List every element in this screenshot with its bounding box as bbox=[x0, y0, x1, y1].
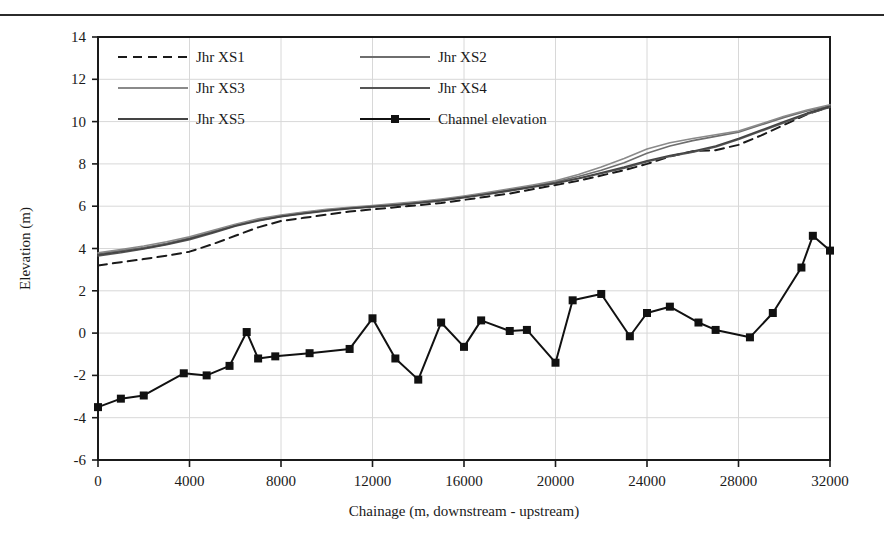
data-point-marker bbox=[712, 326, 720, 334]
data-point-marker bbox=[809, 232, 817, 240]
data-point-marker bbox=[254, 354, 262, 362]
x-tick-label: 0 bbox=[94, 473, 102, 489]
data-point-marker bbox=[460, 343, 468, 351]
y-tick-label: -6 bbox=[74, 452, 87, 468]
x-tick-label: 4000 bbox=[175, 473, 205, 489]
y-axis-label: Elevation (m) bbox=[17, 207, 34, 290]
legend-item[interactable]: Jhr XS1 bbox=[118, 49, 245, 65]
data-point-marker bbox=[94, 403, 102, 411]
x-tick-label: 20000 bbox=[537, 473, 575, 489]
x-tick-label: 32000 bbox=[811, 473, 849, 489]
figure-container: -6-4-20246810121404000800012000160002000… bbox=[0, 0, 884, 556]
data-point-marker bbox=[523, 326, 531, 334]
data-point-marker bbox=[203, 371, 211, 379]
data-point-marker bbox=[437, 319, 445, 327]
data-point-marker bbox=[826, 247, 834, 255]
y-tick-label: -2 bbox=[74, 367, 87, 383]
x-tick-label: 24000 bbox=[628, 473, 666, 489]
legend-item[interactable]: Jhr XS2 bbox=[360, 49, 487, 65]
y-tick-label: -4 bbox=[74, 410, 87, 426]
legend-item[interactable]: Jhr XS3 bbox=[118, 80, 245, 96]
data-point-marker bbox=[226, 362, 234, 370]
y-tick-label: 8 bbox=[79, 156, 87, 172]
x-tick-label: 28000 bbox=[720, 473, 758, 489]
data-point-marker bbox=[271, 352, 279, 360]
legend-item[interactable]: Jhr XS4 bbox=[360, 80, 487, 96]
legend-item[interactable]: Channel elevation bbox=[360, 111, 547, 127]
legend-label: Channel elevation bbox=[438, 111, 547, 127]
y-tick-labels: -6-4-202468101214 bbox=[71, 29, 87, 468]
data-point-marker bbox=[391, 354, 399, 362]
x-tick-label: 8000 bbox=[266, 473, 296, 489]
data-point-marker bbox=[769, 309, 777, 317]
data-point-marker bbox=[569, 296, 577, 304]
y-tick-label: 6 bbox=[79, 198, 87, 214]
data-point-marker bbox=[477, 316, 485, 324]
data-point-marker bbox=[369, 314, 377, 322]
data-point-marker bbox=[180, 369, 188, 377]
data-point-marker bbox=[626, 332, 634, 340]
data-point-marker bbox=[666, 303, 674, 311]
x-axis-label: Chainage (m, downstream - upstream) bbox=[349, 503, 579, 520]
gridlines bbox=[98, 37, 830, 460]
y-tick-label: 14 bbox=[71, 29, 87, 45]
y-tick-label: 10 bbox=[71, 114, 86, 130]
data-point-marker bbox=[140, 391, 148, 399]
data-point-marker bbox=[597, 290, 605, 298]
data-point-marker bbox=[414, 376, 422, 384]
axis-ticks bbox=[92, 37, 830, 467]
data-point-marker bbox=[243, 328, 251, 336]
x-tick-labels: 040008000120001600020000240002800032000 bbox=[94, 473, 849, 489]
legend-label: Jhr XS4 bbox=[438, 80, 487, 96]
x-tick-label: 16000 bbox=[445, 473, 483, 489]
data-point-marker bbox=[797, 264, 805, 272]
legend-label: Jhr XS5 bbox=[196, 111, 245, 127]
data-point-marker bbox=[746, 333, 754, 341]
y-tick-label: 12 bbox=[71, 71, 86, 87]
chart-legend: Jhr XS1Jhr XS2Jhr XS3Jhr XS4Jhr XS5Chann… bbox=[118, 49, 547, 127]
data-point-marker bbox=[552, 359, 560, 367]
y-tick-label: 4 bbox=[79, 241, 87, 257]
y-tick-label: 2 bbox=[79, 283, 87, 299]
data-point-marker bbox=[643, 309, 651, 317]
legend-item[interactable]: Jhr XS5 bbox=[118, 111, 245, 127]
data-point-marker bbox=[694, 319, 702, 327]
legend-label: Jhr XS1 bbox=[196, 49, 245, 65]
x-tick-label: 12000 bbox=[354, 473, 392, 489]
y-tick-label: 0 bbox=[79, 325, 87, 341]
legend-label: Jhr XS2 bbox=[438, 49, 487, 65]
legend-swatch-marker bbox=[391, 115, 399, 123]
data-point-marker bbox=[306, 349, 314, 357]
data-point-marker bbox=[506, 327, 514, 335]
data-point-marker bbox=[346, 345, 354, 353]
chart-canvas: -6-4-20246810121404000800012000160002000… bbox=[0, 0, 884, 556]
data-point-marker bbox=[117, 395, 125, 403]
legend-label: Jhr XS3 bbox=[196, 80, 245, 96]
